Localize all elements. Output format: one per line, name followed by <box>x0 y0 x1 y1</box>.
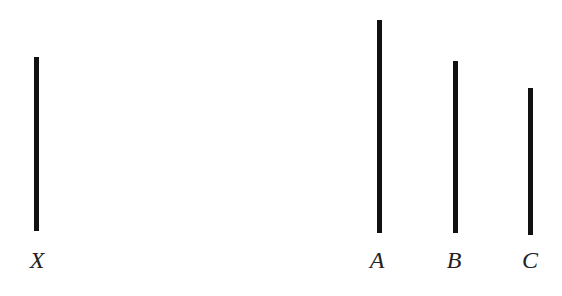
standard-line-x <box>34 57 39 231</box>
comparison-line-c-label: C <box>515 248 545 272</box>
comparison-line-b-label: B <box>439 248 469 272</box>
comparison-line-b <box>453 61 458 233</box>
comparison-line-a-label: A <box>362 248 392 272</box>
comparison-line-c <box>528 88 533 235</box>
standard-line-x-label: X <box>22 248 52 272</box>
comparison-line-a <box>377 20 382 233</box>
